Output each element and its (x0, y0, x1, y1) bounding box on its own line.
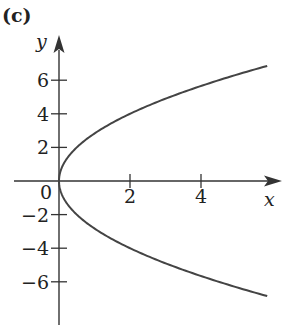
origin-label: 0 (40, 181, 52, 203)
y-tick-label: −2 (21, 204, 49, 226)
panel-label: (c) (2, 4, 32, 26)
chart-plot: 24−6−4−2246 (c) y x 0 (0, 0, 284, 333)
x-axis-label: x (264, 188, 275, 210)
x-tick-label: 2 (124, 185, 136, 207)
y-axis-label: y (35, 30, 47, 52)
y-tick-label: 6 (37, 69, 49, 91)
y-tick-label: −6 (21, 271, 49, 293)
axes (14, 35, 282, 325)
y-tick-label: 2 (37, 136, 49, 158)
y-tick-label: 4 (37, 103, 49, 125)
y-tick-label: −4 (21, 237, 49, 259)
x-tick-label: 4 (195, 185, 207, 207)
